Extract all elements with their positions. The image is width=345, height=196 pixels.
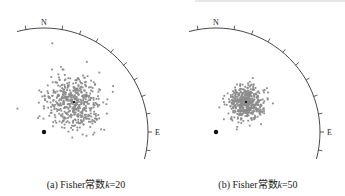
tick-mark	[318, 150, 322, 151]
stereonet-plot-a: NE	[0, 0, 172, 176]
tick-mark	[146, 113, 150, 114]
sample-points	[17, 42, 114, 138]
tick-mark	[62, 26, 63, 30]
mean-direction-marker	[73, 101, 75, 103]
tick-mark	[268, 38, 270, 41]
tick-mark	[306, 78, 309, 80]
north-label: N	[213, 18, 219, 27]
sample-points	[218, 77, 273, 130]
tick-mark	[146, 150, 150, 151]
stereonet-plot-b: NE	[172, 0, 344, 176]
tick-mark	[111, 49, 114, 52]
panel-a: NE (a) Fisher常数k=20	[0, 0, 172, 196]
net-arc	[17, 28, 148, 159]
tick-mark	[234, 26, 235, 30]
tick-mark	[142, 95, 146, 96]
tick-mark	[296, 63, 299, 66]
tick-mark	[252, 31, 253, 35]
reference-point	[42, 130, 46, 134]
reference-point	[214, 130, 218, 134]
tick-mark	[25, 26, 26, 30]
caption-a: (a) Fisher常数k=20	[0, 176, 172, 191]
tick-mark	[197, 26, 198, 30]
tick-mark	[283, 49, 286, 52]
east-label: E	[155, 128, 160, 137]
tick-mark	[80, 31, 81, 35]
north-label: N	[41, 18, 47, 27]
tick-mark	[318, 113, 322, 114]
tick-mark	[314, 95, 318, 96]
tick-mark	[134, 78, 137, 80]
mean-direction-marker	[245, 101, 247, 103]
tick-mark	[124, 63, 127, 66]
east-label: E	[327, 128, 332, 137]
caption-b: (b) Fisher常数k=50	[172, 176, 344, 191]
panel-b: NE (b) Fisher常数k=50	[172, 0, 344, 196]
tick-mark	[96, 38, 98, 41]
